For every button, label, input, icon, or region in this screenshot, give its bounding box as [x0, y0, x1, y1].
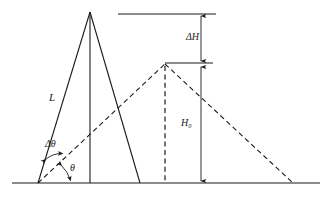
- low-triangle-left-side: [38, 64, 165, 183]
- geometry-figure: L Δθ θ ΔH H₀: [0, 0, 329, 209]
- base-height-label: H₀: [181, 118, 192, 128]
- height-increment-label: ΔH: [186, 32, 199, 42]
- angle-increment-label: Δθ: [45, 139, 56, 149]
- delta-theta-arc: [46, 153, 63, 159]
- figure-canvas: [0, 0, 329, 209]
- tall-triangle-right-side: [90, 12, 140, 183]
- tall-triangle-left-side: [38, 12, 90, 183]
- slant-length-label: L: [49, 92, 55, 103]
- angle-label: θ: [70, 163, 75, 173]
